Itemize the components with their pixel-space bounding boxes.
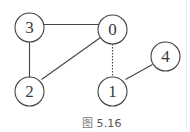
node-1-label: 1 (98, 77, 128, 107)
caption-number: 5.16 (96, 117, 121, 130)
node-4-label: 4 (151, 42, 181, 72)
node-0-label: 0 (98, 15, 128, 45)
caption-prefix: 图 (82, 117, 93, 130)
figure-caption: 图5.16 (0, 114, 190, 130)
node-3-label: 3 (15, 13, 45, 43)
edge-0-2 (42, 38, 101, 80)
page-edge-divider (186, 0, 187, 132)
edge-1-4 (126, 65, 153, 80)
node-2-label: 2 (15, 77, 45, 107)
